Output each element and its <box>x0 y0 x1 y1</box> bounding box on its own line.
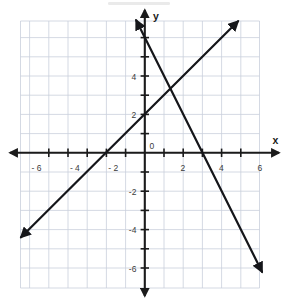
line-y-equals-x-plus-2 <box>21 21 238 237</box>
y-axis-label: y <box>153 10 159 22</box>
y-tick-label-4: 4 <box>132 72 137 82</box>
y-axis-tick-labels: 4 2 -2 -4 -6 <box>129 72 137 274</box>
y-tick-label-neg4: -4 <box>129 225 137 235</box>
x-tick-label-4: 4 <box>219 163 224 173</box>
x-tick-label-6: 6 <box>257 163 262 173</box>
line-y-equals-neg2x-plus-6 <box>136 20 262 271</box>
y-tick-label-neg2: -2 <box>129 187 137 197</box>
origin-label: 0 <box>150 141 155 151</box>
scan-artifact <box>108 2 170 5</box>
x-axis-tick-labels: - 6 - 4 - 2 2 4 6 <box>32 163 263 173</box>
x-tick-label-2: 2 <box>181 163 186 173</box>
grid-lines <box>21 21 260 288</box>
y-tick-label-2: 2 <box>132 110 137 120</box>
x-tick-label-neg4: - 4 <box>70 163 80 173</box>
x-axis-label: x <box>273 134 279 146</box>
y-tick-label-neg6: -6 <box>129 264 137 274</box>
coordinate-plane-figure: - 6 - 4 - 2 2 4 6 4 2 -2 -4 -6 0 x y <box>0 0 289 302</box>
graph-canvas: - 6 - 4 - 2 2 4 6 4 2 -2 -4 -6 0 x y <box>0 0 289 302</box>
x-tick-label-neg6: - 6 <box>32 163 42 173</box>
x-tick-label-neg2: - 2 <box>108 163 118 173</box>
